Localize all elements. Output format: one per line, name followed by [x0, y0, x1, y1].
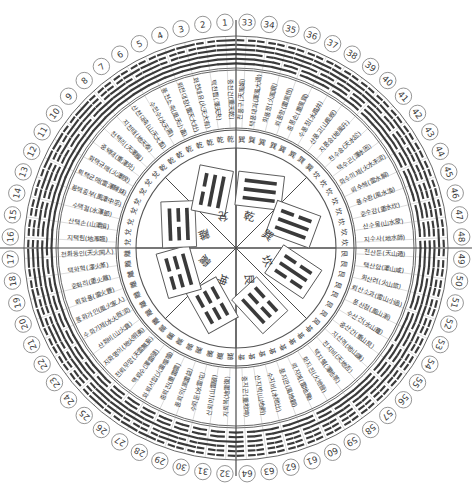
- yin-line-left: [248, 449, 256, 452]
- hexagram-number-9[interactable]: 9: [60, 88, 76, 104]
- hexagram-number-19[interactable]: 19: [9, 295, 25, 311]
- hexagram-number-48[interactable]: 48: [454, 229, 470, 245]
- hexagram-number-58[interactable]: 58: [362, 421, 378, 437]
- hexagram-number-51[interactable]: 51: [447, 295, 463, 311]
- hexagram-number-36[interactable]: 36: [304, 27, 320, 43]
- hexagram-number-61[interactable]: 61: [304, 453, 320, 469]
- hexagram-number-57[interactable]: 57: [380, 407, 396, 423]
- hexagram-number-64[interactable]: 64: [239, 466, 255, 482]
- hexagram-number-28[interactable]: 28: [131, 444, 147, 460]
- hexagram-number-13[interactable]: 13: [15, 164, 31, 180]
- hexagram-number-11[interactable]: 11: [34, 124, 50, 140]
- number-label: 31: [197, 466, 209, 477]
- center-trigram-label-兌: 兌: [217, 209, 229, 223]
- yin-line-right: [217, 431, 225, 434]
- yin-line-left: [176, 208, 180, 222]
- hexagram-number-7[interactable]: 7: [93, 58, 109, 74]
- hexagram-number-40[interactable]: 40: [380, 72, 396, 88]
- hexagram-number-18[interactable]: 18: [4, 273, 20, 289]
- hexagram-number-43[interactable]: 43: [422, 124, 438, 140]
- hexagram-number-8[interactable]: 8: [76, 72, 92, 88]
- hexagram-number-26[interactable]: 26: [93, 421, 109, 437]
- trigram-ring-char: 震: [216, 351, 224, 361]
- yin-line-left: [229, 431, 237, 434]
- trigram-ring-char: 兌: [123, 228, 133, 236]
- trigram-ring-char: 艮: [340, 250, 349, 257]
- yin-line-right: [428, 240, 431, 248]
- hexagram-number-22[interactable]: 22: [34, 356, 50, 372]
- hexagram-number-12[interactable]: 12: [23, 143, 39, 159]
- hexagram-number-59[interactable]: 59: [344, 434, 360, 450]
- hexagram-number-16[interactable]: 16: [2, 229, 18, 245]
- yin-line-left: [32, 240, 35, 248]
- yin-line-right: [46, 248, 49, 256]
- yin-line-left: [228, 454, 236, 457]
- hexagram-number-2[interactable]: 2: [195, 16, 211, 32]
- number-label: 16: [5, 231, 16, 242]
- hexagram-number-44[interactable]: 44: [432, 143, 448, 159]
- trigram-ring-char: 巽: [248, 135, 256, 145]
- hexagram-number-32[interactable]: 32: [217, 466, 233, 482]
- hexagram-number-41[interactable]: 41: [395, 88, 411, 104]
- center-trigram-label-艮: 艮: [242, 274, 256, 286]
- hexagram-number-54[interactable]: 54: [422, 356, 438, 372]
- yin-line-left: [419, 229, 422, 237]
- hexagram-number-21[interactable]: 21: [23, 336, 39, 352]
- hexagram-number-60[interactable]: 60: [324, 444, 340, 460]
- hexagram-number-52[interactable]: 52: [441, 316, 457, 332]
- number-label: 48: [456, 231, 467, 242]
- hexagram-number-53[interactable]: 53: [432, 336, 448, 352]
- hexagram-number-24[interactable]: 24: [60, 392, 76, 408]
- hexagram-number-46[interactable]: 46: [447, 185, 463, 201]
- yin-line-right: [236, 445, 244, 448]
- hexagram-number-56[interactable]: 56: [395, 392, 411, 408]
- trigram-ring-char: 坤: [248, 351, 256, 361]
- hexagram-number-39[interactable]: 39: [362, 58, 378, 74]
- number-label: 63: [263, 466, 275, 477]
- hexagram-number-3[interactable]: 3: [173, 21, 189, 37]
- hexagram-number-38[interactable]: 38: [344, 46, 360, 62]
- hexagram-number-25[interactable]: 25: [76, 407, 92, 423]
- hexagram-number-63[interactable]: 63: [261, 463, 277, 479]
- hexagram-number-47[interactable]: 47: [451, 207, 467, 223]
- center-octants-group: 乾巽坎艮坤震離兌: [136, 148, 336, 348]
- hexagram-number-45[interactable]: 45: [441, 164, 457, 180]
- hexagram-number-17[interactable]: 17: [2, 251, 18, 267]
- yin-line-left: [27, 240, 30, 248]
- hexagram-number-10[interactable]: 10: [46, 105, 62, 121]
- hexagram-number-49[interactable]: 49: [454, 251, 470, 267]
- hexagram-number-29[interactable]: 29: [152, 453, 168, 469]
- hexagram-number-31[interactable]: 31: [195, 463, 211, 479]
- hexagram-number-1[interactable]: 1: [217, 14, 233, 30]
- hexagram-number-55[interactable]: 55: [409, 374, 425, 390]
- hexagram-number-34[interactable]: 34: [261, 16, 277, 32]
- trigram-ring-char: 離: [123, 250, 132, 257]
- number-label: 34: [263, 19, 275, 30]
- hexagram-number-33[interactable]: 33: [239, 14, 255, 30]
- hexagram-number-5[interactable]: 5: [131, 35, 147, 51]
- number-label: 18: [7, 275, 18, 287]
- hexagram-number-30[interactable]: 30: [173, 459, 189, 475]
- yin-line-right: [216, 454, 224, 457]
- hexagram-number-62[interactable]: 62: [283, 459, 299, 475]
- number-label: 1: [222, 17, 228, 27]
- trigram-ring-char: 艮: [339, 260, 349, 268]
- yin-line-left: [438, 248, 441, 256]
- hexagram-number-35[interactable]: 35: [283, 21, 299, 37]
- hexagram-number-20[interactable]: 20: [15, 316, 31, 332]
- hexagram-number-23[interactable]: 23: [46, 374, 62, 390]
- hexagram-number-14[interactable]: 14: [9, 185, 25, 201]
- yin-line-left: [442, 228, 445, 236]
- yin-line-right: [217, 435, 225, 438]
- trigram-ring-char: 坤: [238, 352, 245, 361]
- hexagram-number-4[interactable]: 4: [152, 27, 168, 43]
- hexagram-number-15[interactable]: 15: [4, 207, 20, 223]
- hexagram-number-50[interactable]: 50: [451, 273, 467, 289]
- hexagram-number-27[interactable]: 27: [112, 434, 128, 450]
- hexagram-number-42[interactable]: 42: [409, 105, 425, 121]
- hexagram-number-37[interactable]: 37: [324, 35, 340, 51]
- hexagram-number-6[interactable]: 6: [112, 46, 128, 62]
- yin-line-right: [442, 260, 445, 268]
- yin-line-left: [36, 240, 39, 248]
- trigram-ring-char: 震: [227, 352, 234, 361]
